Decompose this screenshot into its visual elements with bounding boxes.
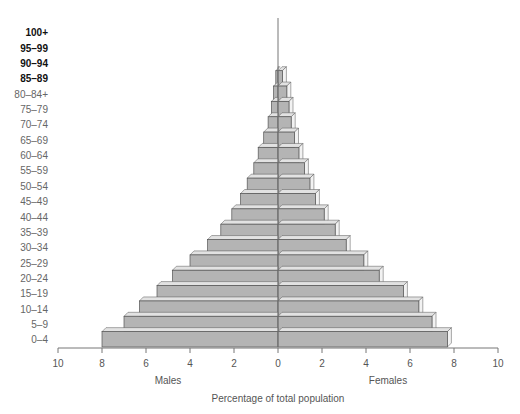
age-group-label: 85–89 xyxy=(20,73,48,84)
male-bar-top xyxy=(172,266,278,270)
age-group-label: 65–69 xyxy=(20,135,48,146)
male-bar-top xyxy=(102,328,278,332)
male-bar-top xyxy=(232,205,278,209)
age-group-label: 15–19 xyxy=(20,288,48,299)
age-group-label: 50–54 xyxy=(20,181,48,192)
male-bar-top xyxy=(271,97,278,101)
female-bar-top xyxy=(278,159,308,163)
male-bar-top xyxy=(268,113,278,117)
x-tick-label: 2 xyxy=(231,358,237,369)
x-tick-label: 8 xyxy=(99,358,105,369)
female-bar-top xyxy=(278,205,328,209)
age-group-label: 0–4 xyxy=(31,334,48,345)
male-bar-top xyxy=(139,297,278,301)
male-bar-top xyxy=(241,190,278,194)
female-bar-top xyxy=(278,282,407,286)
age-group-label: 5–9 xyxy=(31,319,48,330)
age-group-label: 25–29 xyxy=(20,258,48,269)
female-bar-top xyxy=(278,297,423,301)
age-group-label: 45–49 xyxy=(20,196,48,207)
x-tick-label: 2 xyxy=(319,358,325,369)
age-group-labels: 100+95–9990–9485–8980–84+75–7970–7465–69… xyxy=(14,27,48,345)
male-bar-top xyxy=(247,174,278,178)
age-group-label: 10–14 xyxy=(20,304,48,315)
age-group-label: 80–84+ xyxy=(14,89,48,100)
age-group-label: 30–34 xyxy=(20,242,48,253)
male-bar-top xyxy=(208,236,278,240)
bars-group xyxy=(102,67,451,347)
females-label: Females xyxy=(369,375,407,386)
female-bar-top xyxy=(278,190,319,194)
x-axis-title: Percentage of total population xyxy=(212,393,345,404)
male-bar-top xyxy=(264,128,278,132)
male-bar-top xyxy=(124,312,278,316)
female-bar-top xyxy=(278,236,350,240)
x-tick-label: 4 xyxy=(363,358,369,369)
x-tick-label: 6 xyxy=(143,358,149,369)
age-group-label: 70–74 xyxy=(20,119,48,130)
female-bar xyxy=(278,332,447,347)
male-bar-top xyxy=(258,143,278,147)
x-tick-label: 6 xyxy=(407,358,413,369)
age-group-label: 95–99 xyxy=(20,43,48,54)
x-tick-label: 0 xyxy=(275,358,281,369)
males-label: Males xyxy=(155,375,182,386)
age-group-label: 55–59 xyxy=(20,165,48,176)
male-bar-top xyxy=(157,282,278,286)
age-group-label: 40–44 xyxy=(20,212,48,223)
female-bar-top xyxy=(278,251,368,255)
population-pyramid-chart: 100+95–9990–9485–8980–84+75–7970–7465–69… xyxy=(0,0,520,414)
male-bar xyxy=(102,332,278,347)
x-tick-label: 8 xyxy=(451,358,457,369)
age-group-label: 20–24 xyxy=(20,273,48,284)
female-bar-top xyxy=(278,328,451,332)
x-tick-label: 4 xyxy=(187,358,193,369)
age-group-label: 90–94 xyxy=(20,58,48,69)
female-bar-top xyxy=(278,220,339,224)
female-bar-top xyxy=(278,174,314,178)
female-bar-top xyxy=(278,266,383,270)
age-group-label: 75–79 xyxy=(20,104,48,115)
male-bar-top xyxy=(221,220,278,224)
age-group-label: 35–39 xyxy=(20,227,48,238)
x-tick-label: 10 xyxy=(52,358,64,369)
male-bar-top xyxy=(254,159,278,163)
female-bar-top xyxy=(278,312,436,316)
age-group-label: 100+ xyxy=(25,27,48,38)
x-axis: 1086420246810 xyxy=(52,348,504,369)
x-tick-label: 10 xyxy=(492,358,504,369)
age-group-label: 60–64 xyxy=(20,150,48,161)
male-bar-top xyxy=(190,251,278,255)
